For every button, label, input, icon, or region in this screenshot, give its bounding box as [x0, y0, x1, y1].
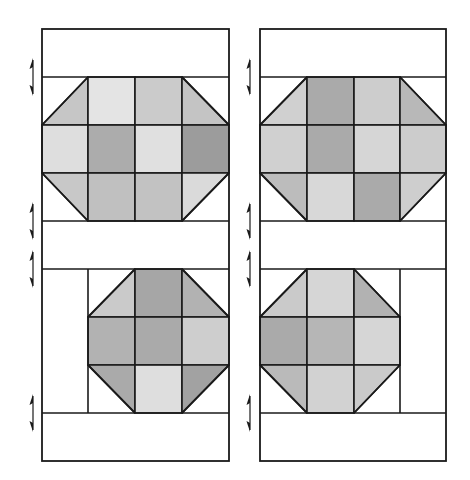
square-patch — [307, 317, 354, 365]
seam-press-arrow-icon — [247, 250, 251, 288]
seam-press-arrow-icon — [30, 394, 34, 432]
square-patch — [135, 317, 182, 365]
square-patch — [400, 125, 446, 173]
square-patch — [88, 125, 135, 173]
quilt-panel-left — [30, 29, 230, 461]
seam-press-arrow-icon — [30, 202, 34, 240]
quilt-panel-right — [247, 29, 447, 461]
square-patch — [182, 125, 229, 173]
square-patch — [354, 125, 400, 173]
seam-press-arrow-icon — [247, 202, 251, 240]
square-patch — [354, 173, 400, 221]
square-patch — [307, 77, 354, 125]
square-patch — [260, 317, 307, 365]
quilt-assembly-diagram — [0, 0, 470, 480]
seam-press-arrow-icon — [247, 58, 251, 96]
seam-press-arrow-icon — [30, 250, 34, 288]
square-patch — [42, 125, 88, 173]
seam-press-arrow-icon — [247, 394, 251, 432]
upper-block — [260, 77, 446, 221]
square-patch — [88, 317, 135, 365]
upper-block — [42, 77, 229, 221]
square-patch — [135, 365, 182, 413]
square-patch — [307, 269, 354, 317]
square-patch — [88, 77, 135, 125]
square-patch — [307, 173, 354, 221]
square-patch — [354, 317, 400, 365]
panels-group — [30, 29, 447, 461]
square-patch — [182, 317, 229, 365]
square-patch — [135, 269, 182, 317]
square-patch — [135, 173, 182, 221]
square-patch — [307, 125, 354, 173]
square-patch — [260, 125, 307, 173]
square-patch — [135, 77, 182, 125]
square-patch — [354, 77, 400, 125]
square-patch — [135, 125, 182, 173]
seam-press-arrow-icon — [30, 58, 34, 96]
square-patch — [88, 173, 135, 221]
square-patch — [307, 365, 354, 413]
